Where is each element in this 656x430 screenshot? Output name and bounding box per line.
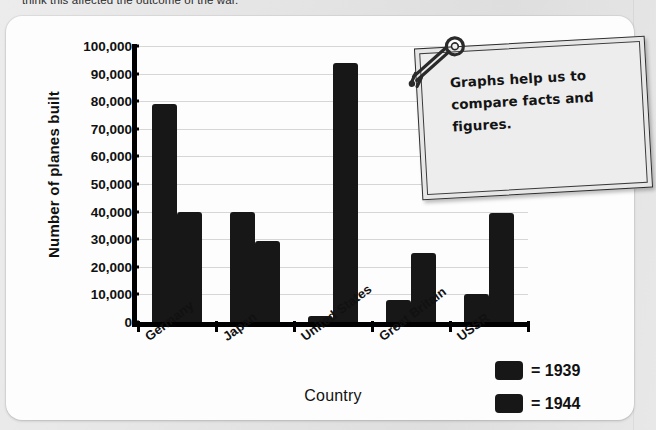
y-tick-mark [132, 265, 139, 268]
y-tick-label: 20,000 [60, 259, 132, 274]
bar [255, 241, 280, 322]
x-tick-mark [527, 321, 530, 332]
legend-swatch-1939 [495, 361, 523, 380]
y-tick-mark [132, 100, 139, 103]
bar [230, 212, 255, 322]
cropped-top-sentence: think this affected the outcome of the w… [22, 0, 352, 8]
y-tick-label: 80,000 [60, 94, 132, 109]
legend-label-1944: = 1944 [531, 395, 580, 413]
y-tick-label: 30,000 [60, 232, 132, 247]
y-tick-mark [132, 210, 139, 213]
y-tick-label: 50,000 [60, 177, 132, 192]
bar [333, 63, 358, 322]
x-tick-mark [449, 321, 452, 332]
y-tick-mark [132, 72, 139, 75]
y-tick-mark [132, 293, 139, 296]
chart-card: Number of planes built 010,00020,00030,0… [6, 16, 634, 420]
y-tick-label: 10,000 [60, 287, 132, 302]
y-tick-mark [132, 127, 139, 130]
bar [489, 213, 514, 322]
x-tick-mark [293, 321, 296, 332]
y-tick-label: 40,000 [60, 204, 132, 219]
y-axis-tick-labels: 010,00020,00030,00040,00050,00060,00070,… [52, 46, 132, 322]
sticky-note: Graphs help us to compare facts and figu… [414, 36, 653, 201]
y-tick-label: 0 [60, 315, 132, 330]
bar [152, 104, 177, 322]
y-tick-mark [132, 183, 139, 186]
x-tick-mark [137, 321, 140, 332]
legend-item-1939: = 1939 [495, 354, 615, 387]
y-tick-mark [132, 155, 139, 158]
y-tick-label: 60,000 [60, 149, 132, 164]
chart-legend: = 1939 = 1944 [495, 354, 615, 420]
y-tick-label: 70,000 [60, 121, 132, 136]
legend-item-1944: = 1944 [495, 387, 615, 420]
x-axis-title: Country [138, 387, 528, 405]
y-tick-label: 90,000 [60, 66, 132, 81]
legend-label-1939: = 1939 [531, 362, 580, 380]
y-tick-mark [132, 238, 139, 241]
legend-swatch-1944 [495, 394, 523, 413]
sticky-note-text: Graphs help us to compare facts and figu… [449, 63, 633, 139]
x-tick-mark [215, 321, 218, 332]
y-tick-label: 100,000 [60, 39, 132, 54]
page-background: think this affected the outcome of the w… [0, 0, 656, 430]
x-tick-mark [371, 321, 374, 332]
y-tick-mark [132, 45, 139, 48]
